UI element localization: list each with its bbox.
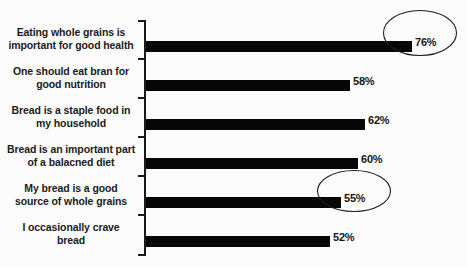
bar-value-label: 76% <box>415 36 436 48</box>
bar-value-label: 52% <box>333 231 354 243</box>
category-label-line2: source of whole grains <box>15 195 127 208</box>
bar-chart: Eating whole grains is important for goo… <box>0 0 467 267</box>
category-label-line2: good nutrition <box>36 78 106 91</box>
bar-value-label: 60% <box>361 153 382 165</box>
category-label-line1: Bread is a staple food in <box>12 104 131 117</box>
chart-row: I occasionally crave bread 52% <box>0 214 467 253</box>
category-label-line2: bread <box>57 234 85 247</box>
category-label-line2: important for good health <box>8 39 133 52</box>
bar <box>146 197 341 208</box>
bar <box>146 119 365 130</box>
bar-value-label: 55% <box>344 192 365 204</box>
bar <box>146 158 358 169</box>
category-label-line1: My bread is a good <box>24 182 117 195</box>
chart-row: Bread is an important part of a balacned… <box>0 136 467 175</box>
chart-row: My bread is a good source of whole grain… <box>0 175 467 214</box>
category-label: Bread is an important part of a balacned… <box>4 136 138 175</box>
bar <box>146 80 350 91</box>
category-label-line1: Eating whole grains is <box>17 26 126 39</box>
bar-value-label: 62% <box>368 114 389 126</box>
bar-value-label: 58% <box>353 75 374 87</box>
axis-bottom-cap <box>138 254 145 256</box>
category-label-line1: I occasionally crave <box>22 221 119 234</box>
category-label: I occasionally crave bread <box>4 214 138 253</box>
category-label: Bread is a staple food in my household <box>4 97 138 136</box>
chart-row: Bread is a staple food in my household 6… <box>0 97 467 136</box>
category-label: One should eat bran for good nutrition <box>4 58 138 97</box>
chart-row: Eating whole grains is important for goo… <box>0 19 467 58</box>
chart-row: One should eat bran for good nutrition 5… <box>0 58 467 97</box>
bar <box>146 41 412 52</box>
category-label-line1: One should eat bran for <box>13 65 129 78</box>
category-label: My bread is a good source of whole grain… <box>4 175 138 214</box>
category-label-line1: Bread is an important part <box>7 143 135 156</box>
category-label: Eating whole grains is important for goo… <box>4 19 138 58</box>
category-label-line2: of a balacned diet <box>28 156 115 169</box>
bar <box>146 236 330 247</box>
category-label-line2: my household <box>36 117 106 130</box>
